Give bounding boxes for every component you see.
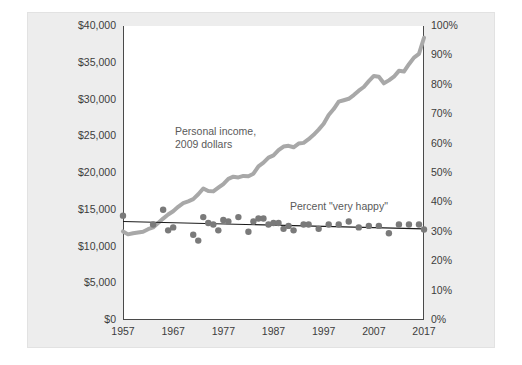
income-annotation-line1: Personal income,	[175, 125, 256, 138]
x-axis-tick: 2017	[399, 325, 449, 337]
scatter-point	[245, 229, 251, 235]
scatter-point	[305, 221, 311, 227]
right-axis-tick: 60%	[431, 137, 486, 149]
x-axis-tick: 1957	[98, 325, 148, 337]
right-axis-tick: 20%	[431, 254, 486, 266]
scatter-point	[120, 212, 126, 218]
right-axis-tick: 30%	[431, 225, 486, 237]
income-annotation: Personal income, 2009 dollars	[175, 125, 256, 150]
left-axis-tick: $5,000	[38, 276, 116, 288]
x-axis-tick: 2007	[349, 325, 399, 337]
happiness-annotation: Percent "very happy"	[290, 200, 388, 213]
x-axis-tick: 1987	[249, 325, 299, 337]
scatter-point	[285, 223, 291, 229]
left-axis-tick: $35,000	[38, 56, 116, 68]
left-axis-tick: $40,000	[38, 19, 116, 31]
x-axis-tick: 1967	[148, 325, 198, 337]
plot-area-background	[123, 26, 424, 320]
left-axis-tick: $15,000	[38, 203, 116, 215]
scatter-point	[406, 221, 412, 227]
scatter-point	[275, 220, 281, 226]
scatter-point	[210, 221, 216, 227]
right-axis-tick: 80%	[431, 78, 486, 90]
left-axis-tick: $25,000	[38, 129, 116, 141]
income-annotation-line2: 2009 dollars	[175, 138, 256, 151]
scatter-point	[215, 227, 221, 233]
x-axis-tick: 1997	[299, 325, 349, 337]
scatter-point	[376, 223, 382, 229]
left-axis-tick: $20,000	[38, 166, 116, 178]
scatter-point	[260, 215, 266, 221]
right-axis-tick: 90%	[431, 48, 486, 60]
right-axis-tick: 100%	[431, 19, 486, 31]
scatter-point	[356, 224, 362, 230]
x-axis-tick: 1977	[198, 325, 248, 337]
left-axis-tick: $30,000	[38, 93, 116, 105]
right-axis-tick: 50%	[431, 166, 486, 178]
scatter-point	[396, 221, 402, 227]
scatter-point	[170, 224, 176, 230]
scatter-point	[150, 221, 156, 227]
scatter-point	[235, 214, 241, 220]
scatter-point	[336, 221, 342, 227]
right-axis-tick: 70%	[431, 107, 486, 119]
right-axis-tick: 0%	[431, 313, 486, 325]
right-axis-tick: 40%	[431, 195, 486, 207]
scatter-point	[225, 218, 231, 224]
chart-figure: $0$5,000$10,000$15,000$20,000$25,000$30,…	[0, 0, 522, 365]
scatter-point	[160, 207, 166, 213]
scatter-point	[366, 223, 372, 229]
right-axis-tick: 10%	[431, 284, 486, 296]
scatter-point	[200, 214, 206, 220]
scatter-point	[346, 218, 352, 224]
scatter-point	[315, 226, 321, 232]
left-axis-tick: $10,000	[38, 240, 116, 252]
scatter-point	[190, 232, 196, 238]
scatter-point	[195, 237, 201, 243]
scatter-point	[290, 227, 296, 233]
scatter-point	[386, 230, 392, 236]
scatter-point	[325, 221, 331, 227]
left-axis-tick: $0	[38, 313, 116, 325]
scatter-point	[421, 226, 427, 232]
scatter-point	[416, 221, 422, 227]
